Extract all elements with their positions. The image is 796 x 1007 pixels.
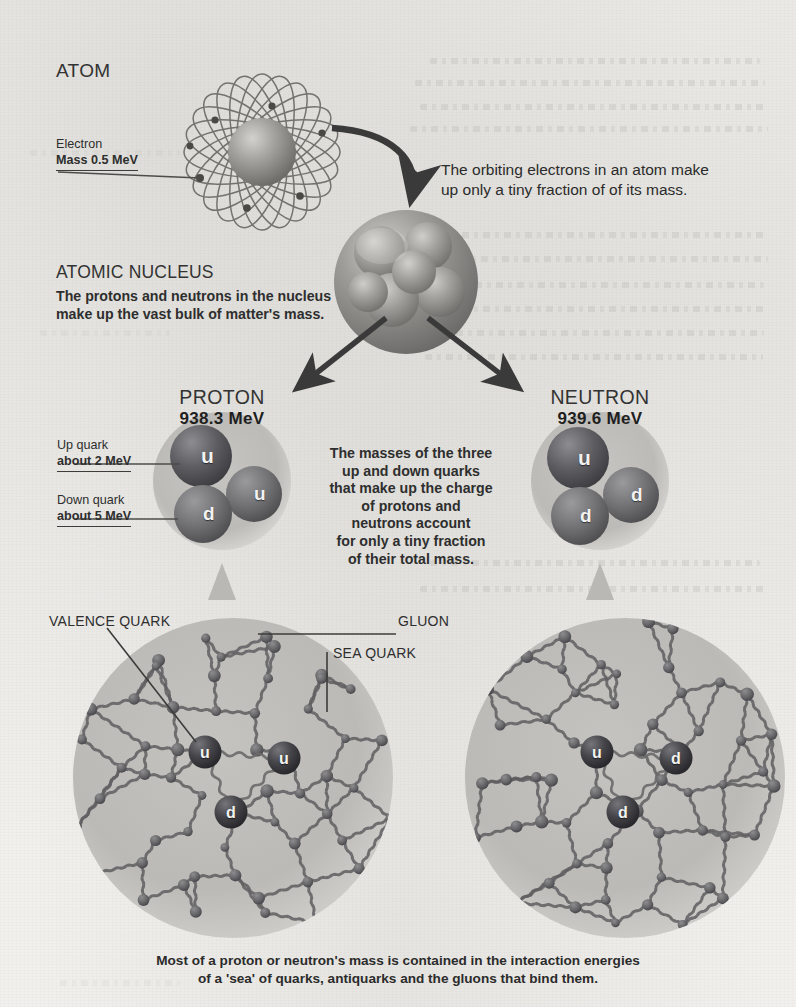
- sea-quark-node: [217, 653, 226, 662]
- up-quark-label: Up quark: [57, 437, 108, 453]
- sea-quark-node: [201, 634, 210, 643]
- sea-quark-node: [260, 908, 270, 918]
- down-quark-label: Down quark: [57, 492, 124, 508]
- sea-quark-node: [704, 882, 716, 894]
- atomic-nucleus-heading: ATOMIC NUCLEUS: [56, 262, 214, 283]
- sea-quark-node: [221, 843, 230, 852]
- sea-quark-node: [139, 769, 150, 780]
- sea-quark-node: [310, 917, 322, 929]
- neutron-mass: 939.6 MeV: [558, 409, 643, 429]
- sea-quark-node: [694, 726, 704, 736]
- sea-quark-node: [178, 879, 190, 891]
- sea-quark-node: [678, 920, 688, 930]
- arrow-nucleus-to-proton: [300, 318, 386, 386]
- sea-quark-node: [562, 818, 572, 828]
- sea-quark-node: [597, 660, 606, 669]
- sea-quark-node: [676, 687, 687, 698]
- neutron-name: NEUTRON: [550, 386, 649, 409]
- sea-quark-node: [270, 818, 279, 827]
- sea-quark-node: [252, 892, 265, 905]
- sea-quark-node: [557, 664, 567, 674]
- sea-quark-node: [766, 729, 777, 740]
- sea-quark-node: [697, 825, 708, 836]
- sea-quark-node: [316, 673, 327, 684]
- sea-quark-node: [717, 892, 729, 904]
- gluon-link: [216, 711, 255, 714]
- sea-quark-node: [642, 615, 655, 628]
- sea-quark-node: [84, 703, 97, 716]
- bottom-caption: Most of a proton or neutron's mass is co…: [156, 952, 640, 988]
- sea-quark-node: [138, 894, 150, 906]
- sea-quark-node: [321, 770, 333, 782]
- sea-quark-node: [73, 822, 82, 831]
- sea-quark-node: [545, 774, 558, 787]
- sea-quark-node: [590, 786, 603, 799]
- sea-quark-node: [500, 774, 512, 786]
- sea-quark-node: [268, 640, 281, 653]
- sea-quark-node: [642, 899, 653, 910]
- sea-quark-node: [749, 830, 760, 841]
- proton-quark-gluon-sea: [73, 618, 395, 938]
- sea-quark-node: [610, 700, 619, 709]
- sea-quark-node: [137, 857, 148, 868]
- sea-quark-node: [92, 868, 102, 878]
- sea-quark-node: [740, 687, 754, 701]
- sea-quark-node: [171, 743, 184, 756]
- gluon-link: [722, 785, 726, 838]
- sea-quark-node: [758, 767, 768, 777]
- sea-quark-node: [657, 873, 666, 882]
- atom-heading: ATOM: [56, 60, 110, 82]
- sea-quark-node: [208, 669, 221, 682]
- atomic-nucleus-description: The protons and neutrons in the nucleus …: [56, 288, 331, 323]
- sea-quark-node: [544, 878, 555, 889]
- sea-quark-node: [385, 813, 395, 823]
- sea-quark-node: [719, 780, 728, 789]
- sea-quark-node: [572, 859, 582, 869]
- electron-mass-note: The orbiting electrons in an atom make u…: [441, 160, 709, 199]
- sea-quark-node: [684, 788, 693, 797]
- electron-leader-line: [58, 172, 200, 178]
- sea-quark-node: [569, 901, 581, 913]
- neutron-quark-gluon-sea: [465, 615, 785, 938]
- sea-quark-node: [95, 793, 106, 804]
- sea-quark-node: [601, 895, 611, 905]
- sea-quark-node: [198, 791, 207, 800]
- sea-quark-node: [542, 715, 551, 724]
- sea-quark-node: [601, 862, 613, 874]
- sea-quark-node: [736, 735, 746, 745]
- proton-circle: [153, 412, 291, 550]
- electron-mass-value: Mass 0.5 MeV: [56, 152, 138, 171]
- proton-triangle-pointer: [208, 563, 236, 600]
- sea-quark-node: [354, 863, 365, 874]
- sea-quark-node: [349, 784, 358, 793]
- nucleus-illustration: [334, 210, 478, 354]
- sea-quark-node: [653, 827, 665, 839]
- sea-quark-node: [250, 708, 261, 719]
- electron-label: Electron: [56, 136, 102, 152]
- sea-quark-node: [152, 662, 161, 671]
- sea-quark-label: SEA QUARK: [333, 645, 416, 662]
- sea-quark-node: [613, 670, 622, 679]
- arrow-nucleus-to-neutron: [428, 318, 516, 386]
- sea-quark-node: [511, 820, 523, 832]
- sea-quark-node: [715, 677, 725, 687]
- sea-quark-node: [337, 836, 347, 846]
- quark-mass-note: The masses of the three up and down quar…: [329, 445, 492, 568]
- sea-quark-node: [190, 906, 202, 918]
- proton-name: PROTON: [179, 386, 264, 409]
- up-quark-mass: about 2 MeV: [57, 453, 131, 472]
- sea-quark-node: [535, 815, 549, 829]
- neutron-triangle-pointer: [586, 563, 614, 600]
- sea-quark-node: [128, 693, 139, 704]
- sea-quark-node: [603, 838, 614, 849]
- sea-quark-node: [229, 869, 241, 881]
- sea-quark-node: [663, 662, 674, 673]
- sea-quark-node: [263, 674, 273, 684]
- sea-quark-node: [166, 772, 176, 782]
- sea-quark-node: [470, 832, 481, 843]
- sea-quark-node: [295, 788, 305, 798]
- sea-quark-node: [341, 734, 350, 743]
- sea-quark-node: [211, 706, 221, 716]
- proton-mass: 938.3 MeV: [180, 409, 265, 429]
- sea-quark-node: [304, 705, 313, 714]
